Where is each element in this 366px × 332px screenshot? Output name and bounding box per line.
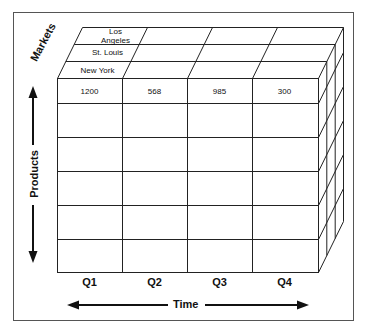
cell-value-q1: 1200 — [57, 87, 122, 96]
market-label-la-line1: Los — [88, 27, 143, 36]
quarter-label-q3: Q3 — [187, 276, 252, 288]
market-label-los-angeles: Los Angeles — [88, 27, 143, 45]
products-axis-title: Products — [28, 146, 40, 202]
quarter-label-q1: Q1 — [57, 276, 122, 288]
time-axis-title: Time — [173, 298, 198, 310]
cell-value-q2: 568 — [122, 87, 187, 96]
quarter-label-q2: Q2 — [122, 276, 187, 288]
market-label-new-york: New York — [70, 66, 125, 75]
market-label-st-louis: St. Louis — [80, 48, 135, 57]
quarter-label-q4: Q4 — [252, 276, 317, 288]
cell-value-q3: 985 — [187, 87, 252, 96]
market-label-la-line2: Angeles — [88, 36, 143, 45]
cell-value-q4: 300 — [252, 87, 317, 96]
